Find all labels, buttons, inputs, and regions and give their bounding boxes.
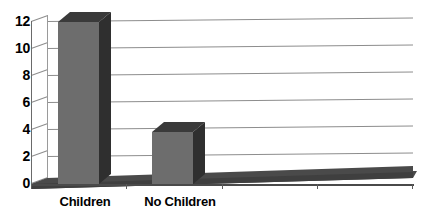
depth-connector-8 xyxy=(31,69,47,76)
bar-front-face xyxy=(152,132,193,184)
plot-area: 12 3.8 xyxy=(0,0,426,217)
x-tick-0 xyxy=(31,184,32,189)
bar-side-face xyxy=(193,122,205,184)
bar-chart: 12 10 8 6 4 2 0 xyxy=(0,0,426,217)
depth-connector-2 xyxy=(31,150,47,157)
depth-connector-10 xyxy=(31,42,47,49)
category-label-no-children: No Children xyxy=(144,194,215,209)
x-tick-4 xyxy=(412,184,413,189)
depth-connector-4 xyxy=(31,123,47,130)
y-axis-back-edge xyxy=(47,15,48,178)
x-tick-2 xyxy=(222,184,223,189)
bar-children[interactable]: 12 xyxy=(58,12,111,184)
bar-front-face xyxy=(58,22,99,184)
x-tick-1 xyxy=(126,184,127,189)
depth-connector-12 xyxy=(31,15,47,22)
bar-side-face xyxy=(99,12,111,184)
category-label-children: Children xyxy=(59,194,110,209)
bar-no-children[interactable]: 3.8 xyxy=(152,122,205,184)
x-tick-3 xyxy=(317,184,318,189)
depth-connector-6 xyxy=(31,96,47,103)
